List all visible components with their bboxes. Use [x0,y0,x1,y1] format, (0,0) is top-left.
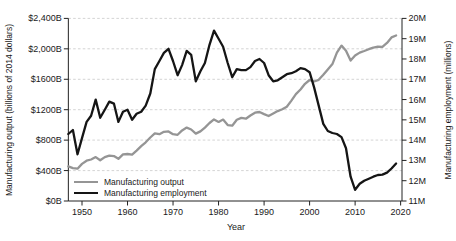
employment-line-swatch [74,192,98,195]
right-tick-label: 11M [409,196,426,206]
x-axis-ticks: 19501960197019801990200020102020 [72,201,411,217]
x-axis-title: Year [227,222,245,232]
left-tick-label: $1600B [31,74,62,84]
right-tick-label: 14M [409,135,427,145]
left-tick-label: $0B [46,196,62,206]
x-tick-label: 1960 [118,207,138,217]
legend: Manufacturing output Manufacturing emplo… [74,177,207,198]
legend-label-output: Manufacturing output [104,177,184,187]
left-axis-title: Manufacturing output (billions of 2014 d… [4,24,14,196]
x-tick-label: 1980 [209,207,229,217]
left-tick-label: $400B [36,166,62,176]
legend-item-employment: Manufacturing employment [74,188,207,198]
left-axis-ticks: $0B$400B$800B$1200B$1600B$2,000B$2,400B [28,13,68,206]
right-tick-label: 13M [409,155,427,165]
x-tick-label: 2010 [345,207,365,217]
right-tick-label: 16M [409,95,427,105]
right-tick-label: 15M [409,115,427,125]
gridlines [68,18,402,170]
legend-item-output: Manufacturing output [74,177,207,187]
x-tick-label: 1950 [72,207,92,217]
chart-canvas: $0B$400B$800B$1200B$1600B$2,000B$2,400B1… [0,0,456,241]
right-tick-label: 18M [409,54,427,64]
x-tick-label: 1990 [254,207,274,217]
left-tick-label: $2,000B [28,44,62,54]
x-tick-label: 2000 [300,207,320,217]
manufacturing-output-employment-figure: $0B$400B$800B$1200B$1600B$2,000B$2,400B1… [0,0,456,241]
right-axis-ticks: 11M12M13M14M15M16M17M18M19M20M [402,13,426,206]
output-line-swatch [74,181,98,184]
x-tick-label: 1970 [163,207,183,217]
right-tick-label: 20M [409,13,427,23]
right-axis-title: Manufacturing employment (millions) [443,41,453,180]
right-tick-label: 17M [409,74,427,84]
legend-label-employment: Manufacturing employment [104,188,207,198]
right-tick-label: 19M [409,34,427,44]
left-tick-label: $800B [36,135,62,145]
right-tick-label: 12M [409,176,427,186]
left-tick-label: $2,400B [28,13,62,23]
left-tick-label: $1200B [31,105,62,115]
x-tick-label: 2020 [391,207,411,217]
